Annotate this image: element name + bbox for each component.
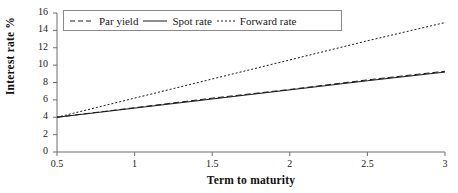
y-tick-label: 4 — [22, 110, 48, 121]
y-tick-label: 2 — [22, 128, 48, 139]
x-tick-label: 2.5 — [347, 158, 387, 169]
dotted-line-sample — [216, 16, 236, 26]
x-axis-ticks — [57, 152, 445, 156]
x-tick-label: 0.5 — [37, 158, 77, 169]
x-tick-label: 1.5 — [192, 158, 232, 169]
y-tick-label: 6 — [22, 93, 48, 104]
y-tick-label: 8 — [22, 76, 48, 87]
legend-item-spot-rate: Spot rate — [142, 15, 215, 27]
y-tick-label: 10 — [22, 58, 48, 69]
chart-figure: Interest rate % Term to maturity 0246810… — [0, 0, 458, 193]
x-tick-label: 1 — [115, 158, 155, 169]
data-series-lines — [57, 23, 445, 118]
x-tick-label: 2 — [270, 158, 310, 169]
axis-lines — [57, 13, 445, 152]
y-axis-title: Interest rate % — [4, 8, 16, 104]
y-tick-label: 0 — [22, 145, 48, 156]
legend-label-forward-rate: Forward rate — [236, 15, 301, 27]
y-tick-label: 14 — [22, 23, 48, 34]
y-tick-label: 12 — [22, 41, 48, 52]
y-tick-label: 16 — [22, 6, 48, 17]
legend-item-forward-rate: Forward rate — [216, 15, 301, 27]
chart-legend: Par yield Spot rate Forward rate — [63, 10, 342, 31]
series-line-forward-rate — [57, 23, 445, 118]
legend-label-par-yield: Par yield — [95, 15, 142, 27]
dashed-line-sample — [69, 16, 95, 26]
x-tick-label: 3 — [425, 158, 458, 169]
legend-label-spot-rate: Spot rate — [168, 15, 215, 27]
legend-item-par-yield: Par yield — [69, 15, 142, 27]
solid-line-sample — [142, 16, 168, 26]
series-line-spot-rate — [57, 72, 445, 117]
x-axis-title: Term to maturity — [57, 174, 445, 186]
y-axis-ticks — [53, 13, 57, 152]
